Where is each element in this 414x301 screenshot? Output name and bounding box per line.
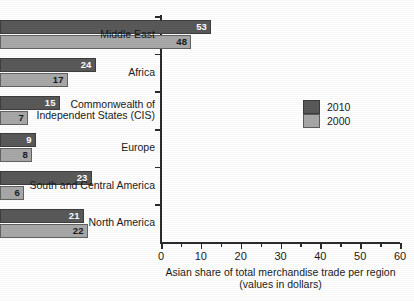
x-axis-tick-25 [261, 243, 263, 247]
x-axis-tick-55 [380, 243, 382, 247]
x-axis-tick-40 [320, 243, 322, 249]
y-axis-tick-2 [155, 91, 161, 93]
x-axis-tick-5 [181, 243, 183, 247]
bar-value-middle-east-2000: 48 [176, 38, 187, 48]
y-axis-label-africa: Africa [128, 67, 155, 79]
bar-value-north-america-2010: 21 [69, 211, 80, 221]
x-axis-tick-15 [221, 243, 223, 247]
legend-label-2010: 2010 [327, 100, 350, 114]
y-axis-label-south-and-central-america-line1: South and Central America [30, 179, 156, 191]
x-axis-tick-45 [340, 243, 342, 247]
bar-chart: 53482417157982362122 Middle EastAfricaCo… [0, 0, 414, 301]
bar-south-and-central-america-2000: 6 [0, 186, 24, 200]
bar-value-europe-2000: 8 [22, 151, 27, 161]
bar-africa-2010: 24 [0, 58, 96, 72]
y-axis-tick-3 [155, 129, 161, 131]
y-axis-label-europe: Europe [121, 142, 155, 154]
plot-area [161, 16, 400, 242]
bar-europe-2010: 9 [0, 133, 36, 147]
x-axis-tick-label-60: 60 [394, 250, 406, 262]
x-axis-tick-label-50: 50 [354, 250, 366, 262]
x-axis-title-line1: Asian share of total merchandise trade p… [166, 266, 396, 278]
y-axis-label-commonwealth-of-independent-states-cis: Commonwealth ofIndependent States (CIS) [37, 99, 156, 122]
bar-value-europe-2010: 9 [26, 136, 31, 146]
x-axis-tick-10 [201, 243, 203, 249]
y-axis-tick-1 [155, 54, 161, 56]
bar-value-south-and-central-america-2000: 6 [14, 188, 19, 198]
y-axis-label-commonwealth-of-independent-states-cis-line1: Commonwealth of [70, 98, 155, 110]
y-axis-label-middle-east: Middle East [100, 29, 155, 41]
y-axis-label-middle-east-line1: Middle East [100, 28, 155, 40]
x-axis-tick-0 [161, 243, 163, 249]
y-axis-label-south-and-central-america: South and Central America [30, 180, 156, 192]
x-axis-tick-label-0: 0 [158, 250, 164, 262]
x-axis-tick-30 [281, 243, 283, 249]
y-axis-label-north-america: North America [88, 217, 155, 229]
bar-value-africa-2010: 24 [81, 60, 92, 70]
y-axis-tick-4 [155, 167, 161, 169]
x-axis-title: Asian share of total merchandise trade p… [161, 266, 400, 290]
y-axis-tick-5 [155, 204, 161, 206]
x-axis-tick-60 [400, 243, 402, 249]
bar-value-north-america-2000: 22 [73, 226, 84, 236]
bar-value-africa-2000: 17 [53, 75, 64, 85]
bar-middle-east-2000: 48 [0, 35, 191, 49]
y-axis-label-commonwealth-of-independent-states-cis-line2: Independent States (CIS) [37, 110, 156, 122]
bar-value-commonwealth-of-independent-states-cis-2000: 7 [18, 113, 23, 123]
x-axis-tick-label-10: 10 [195, 250, 207, 262]
x-axis-tick-50 [360, 243, 362, 249]
y-axis-tick-0 [155, 16, 161, 18]
bar-africa-2000: 17 [0, 73, 68, 87]
legend-swatch-2010 [303, 100, 320, 114]
x-axis-tick-20 [241, 243, 243, 249]
x-axis-title-line2: (values in dollars) [161, 278, 400, 290]
legend-swatch-2000 [303, 114, 320, 128]
bar-europe-2000: 8 [0, 148, 32, 162]
x-axis-tick-label-40: 40 [314, 250, 326, 262]
x-axis-tick-label-30: 30 [274, 250, 286, 262]
bar-north-america-2000: 22 [0, 224, 88, 238]
bar-commonwealth-of-independent-states-cis-2000: 7 [0, 111, 28, 125]
x-axis-tick-label-20: 20 [235, 250, 247, 262]
legend-label-2000: 2000 [327, 114, 350, 128]
x-axis-tick-35 [300, 243, 302, 247]
bar-value-middle-east-2010: 53 [196, 23, 207, 33]
y-axis-label-europe-line1: Europe [121, 141, 155, 153]
y-axis-label-africa-line1: Africa [128, 66, 155, 78]
bar-north-america-2010: 21 [0, 209, 84, 223]
y-axis-label-north-america-line1: North America [88, 216, 155, 228]
